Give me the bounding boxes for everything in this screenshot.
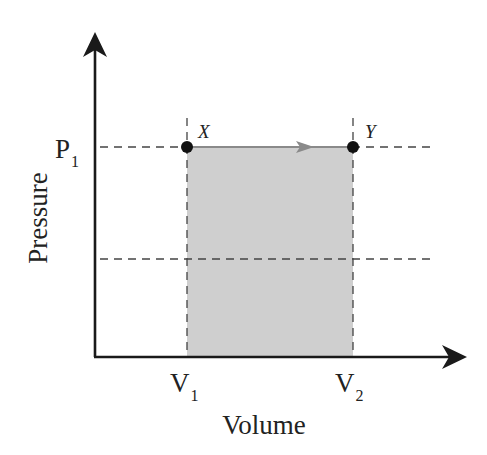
y-axis-title: Pressure — [23, 172, 53, 263]
p1-main: P — [55, 134, 70, 164]
v1-main: V — [170, 368, 190, 398]
x-axis-title: Volume — [222, 410, 306, 440]
point-y-marker — [347, 141, 359, 153]
v2-subscript: 2 — [356, 387, 364, 404]
work-area-shading — [187, 147, 353, 357]
v1-tick-label: V1 — [170, 368, 199, 404]
pv-diagram: X Y P1 V1 V2 Volume Pressure — [0, 0, 487, 455]
v2-main: V — [335, 368, 355, 398]
point-y-label: Y — [365, 121, 378, 142]
v1-subscript: 1 — [191, 387, 199, 404]
point-x-label: X — [197, 121, 211, 142]
p1-tick-label: P1 — [55, 134, 79, 170]
p1-subscript: 1 — [71, 153, 79, 170]
v2-tick-label: V2 — [335, 368, 364, 404]
point-x-marker — [181, 141, 193, 153]
